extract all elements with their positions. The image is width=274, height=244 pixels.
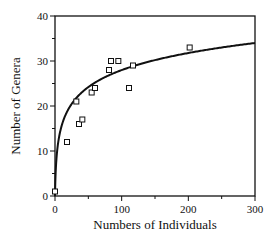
data-point-marker xyxy=(187,45,192,50)
y-tick-label: 40 xyxy=(37,10,49,22)
data-point-marker xyxy=(116,59,121,64)
chart-svg: 0100200300010203040 Numbers of Individua… xyxy=(0,0,274,244)
data-point-marker xyxy=(109,59,114,64)
x-axis-label: Numbers of Individuals xyxy=(93,217,216,232)
data-point-marker xyxy=(74,99,79,104)
data-point-marker xyxy=(93,86,98,91)
chart: 0100200300010203040 Numbers of Individua… xyxy=(0,0,274,244)
axis-ticks: 0100200300010203040 xyxy=(37,10,264,215)
x-tick-label: 100 xyxy=(113,203,130,215)
data-point-marker xyxy=(80,117,85,122)
data-point-marker xyxy=(131,63,136,68)
plot-frame xyxy=(55,16,255,196)
x-tick-label: 200 xyxy=(180,203,197,215)
data-point-marker xyxy=(53,189,58,194)
y-tick-label: 10 xyxy=(37,145,49,157)
x-tick-label: 0 xyxy=(52,203,58,215)
y-tick-label: 20 xyxy=(37,100,49,112)
data-point-marker xyxy=(127,86,132,91)
data-point-marker xyxy=(65,140,70,145)
data-point-marker xyxy=(107,68,112,73)
plot-border xyxy=(55,16,255,196)
y-axis-label: Number of Genera xyxy=(8,57,23,155)
data-points xyxy=(53,45,193,194)
x-tick-label: 300 xyxy=(247,203,264,215)
y-tick-label: 0 xyxy=(43,190,49,202)
y-tick-label: 30 xyxy=(37,55,49,67)
